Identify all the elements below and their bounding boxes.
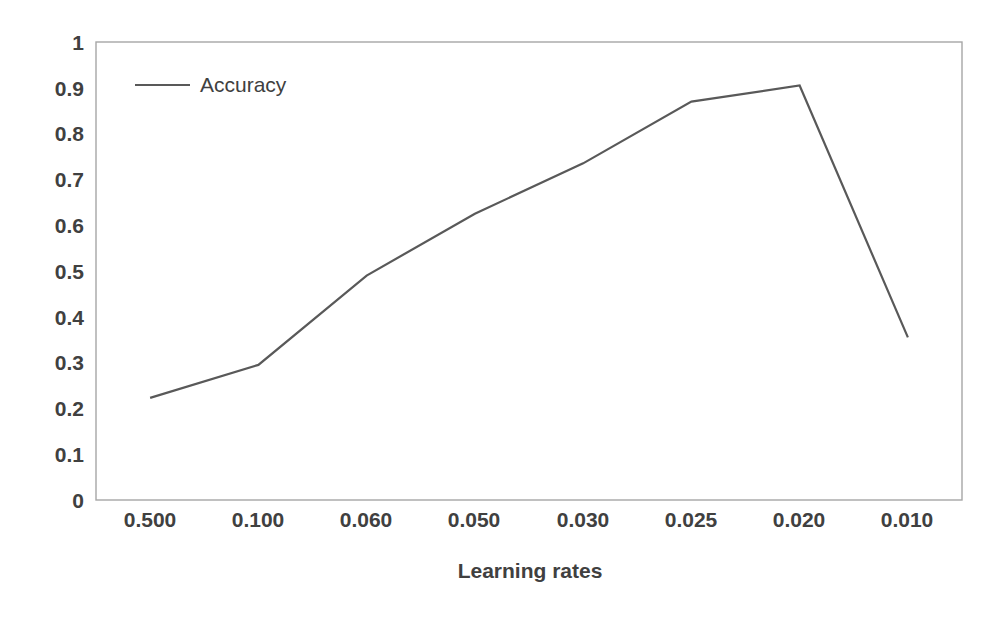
x-axis-tick-label: 0.010 (881, 508, 934, 531)
x-axis-tick-label: 0.100 (232, 508, 285, 531)
y-axis-tick-label: 1 (72, 31, 84, 54)
legend-label-accuracy: Accuracy (200, 73, 287, 96)
line-chart: 1 0.9 0.8 0.7 0.6 0.5 0.4 0.3 0.2 0.1 0 … (0, 0, 998, 618)
y-axis-tick-label: 0.5 (55, 260, 85, 283)
x-axis-tick-label: 0.025 (665, 508, 718, 531)
y-axis-tick-label: 0.2 (55, 397, 84, 420)
x-axis-tick-label: 0.030 (557, 508, 610, 531)
y-axis-tick-label: 0.1 (55, 443, 85, 466)
y-axis-tick-label: 0.6 (55, 214, 84, 237)
y-axis-tick-label: 0.9 (55, 77, 84, 100)
x-axis-title: Learning rates (458, 559, 603, 582)
x-axis-tick-label: 0.060 (340, 508, 393, 531)
y-axis-tick-label: 0.8 (55, 122, 85, 145)
x-axis-tick-label: 0.500 (124, 508, 177, 531)
y-axis-tick-label: 0.7 (55, 168, 84, 191)
x-axis-tick-label: 0.020 (773, 508, 826, 531)
y-axis-tick-label: 0.3 (55, 351, 84, 374)
y-axis-tick-label: 0 (72, 489, 84, 512)
y-axis-tick-label: 0.4 (55, 306, 85, 329)
chart-svg: 1 0.9 0.8 0.7 0.6 0.5 0.4 0.3 0.2 0.1 0 … (0, 0, 998, 618)
x-axis-tick-label: 0.050 (448, 508, 501, 531)
